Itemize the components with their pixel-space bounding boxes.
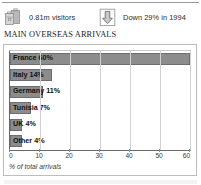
gridline xyxy=(130,51,131,150)
tick-label: 0 xyxy=(9,152,13,159)
tick-label: 30 xyxy=(95,152,102,159)
gridline xyxy=(70,51,71,150)
chart-container: France 60%Italy 14%Germany 11%Tunisia 7%… xyxy=(3,44,197,176)
top-divider xyxy=(2,2,199,3)
down-arrow-icon xyxy=(98,8,117,27)
infographic-panel: 0.81m visitors Down 29% in 1994 MAIN OVE… xyxy=(0,0,201,185)
stat-change: Down 29% in 1994 xyxy=(98,6,186,28)
stat-visitors: 0.81m visitors xyxy=(4,6,75,28)
gridline xyxy=(160,51,161,150)
section-title: MAIN OVERSEAS ARRIVALS xyxy=(4,30,116,39)
plot-area: France 60%Italy 14%Germany 11%Tunisia 7%… xyxy=(9,50,191,151)
tick-label: 10 xyxy=(35,152,42,159)
stat-change-label: Down 29% in 1994 xyxy=(123,13,186,22)
suitcase-luggage-icon xyxy=(4,8,23,27)
summary-stats: 0.81m visitors Down 29% in 1994 xyxy=(0,6,201,28)
gridline xyxy=(100,51,101,150)
bar-label: Germany 11% xyxy=(13,86,60,96)
stat-visitors-label: 0.81m visitors xyxy=(29,13,75,22)
tick-label: 40 xyxy=(125,152,132,159)
x-axis-caption: % of total arrivals xyxy=(9,163,61,170)
tick-label: 20 xyxy=(65,152,72,159)
x-axis: 0102030405060 xyxy=(9,152,191,162)
tick-label: 50 xyxy=(155,152,162,159)
gridline xyxy=(40,51,41,150)
bar-label: France 60% xyxy=(13,53,53,63)
bar-label: Tunisia 7% xyxy=(13,103,50,113)
gridline xyxy=(190,51,191,150)
bar-label: UK 4% xyxy=(13,119,36,129)
bottom-strip xyxy=(4,180,197,184)
tick-label: 60 xyxy=(183,152,190,159)
